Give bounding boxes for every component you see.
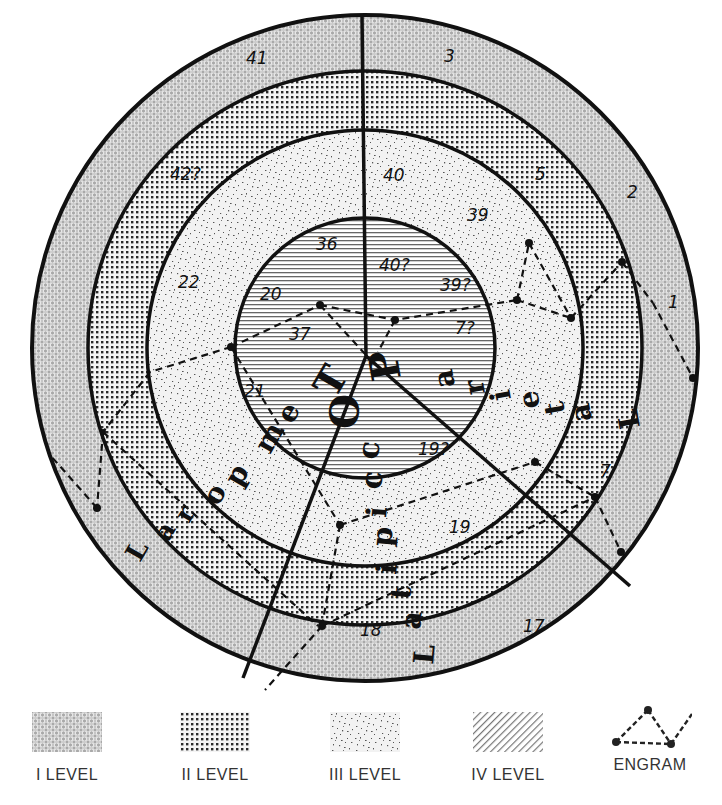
area-39q: 39? [440,275,471,295]
svg-text:O: O [319,392,369,431]
area-1: 1 [668,292,679,312]
legend-item-level-III: III LEVEL [305,712,425,784]
area-40q: 40? [379,255,410,275]
area-41: 41 [246,48,268,68]
legend-item-level-II: II LEVEL [155,712,275,784]
legend: I LEVEL II LEVEL III LEVEL IV LEVEL ENGR… [0,700,722,805]
legend-label: III LEVEL [305,766,425,784]
level-II-swatch-icon [180,712,250,752]
area-21: 21 [244,381,266,401]
svg-text:c: c [350,439,386,460]
area-20: 20 [260,284,282,304]
svg-text:a: a [394,610,428,631]
legend-label: ENGRAM [590,756,710,774]
legend-label: I LEVEL [7,766,127,784]
area-18: 18 [360,620,382,640]
svg-text:c: c [353,469,389,490]
legend-label: II LEVEL [155,766,275,784]
area-19q: 19? [418,439,449,459]
area-7q: 7? [455,318,475,338]
area-19: 19 [449,517,471,537]
area-5: 5 [535,164,546,184]
cortex-level-diagram: 41 3 2 1 17 42? 5 7 18 22 40 39 19 36 20… [0,0,722,700]
area-22: 22 [178,272,200,292]
area-17: 17 [523,616,545,636]
engram-swatch-icon [608,702,692,752]
area-2: 2 [627,182,638,202]
area-40: 40 [383,165,405,185]
area-3: 3 [444,46,455,66]
level-I-swatch-icon [32,712,102,752]
area-7: 7 [600,461,611,481]
svg-text:L: L [407,643,442,666]
legend-item-engram: ENGRAM [590,712,710,774]
legend-item-level-IV: IV LEVEL [448,712,568,784]
legend-label: IV LEVEL [448,766,568,784]
legend-item-level-I: I LEVEL [7,712,127,784]
svg-text:p: p [365,525,400,547]
level-III-swatch-icon [330,712,400,752]
area-42q: 42? [170,164,201,184]
area-36: 36 [316,234,338,254]
level-IV-swatch-icon [473,712,543,752]
area-39: 39 [467,205,489,225]
area-37: 37 [289,324,311,344]
